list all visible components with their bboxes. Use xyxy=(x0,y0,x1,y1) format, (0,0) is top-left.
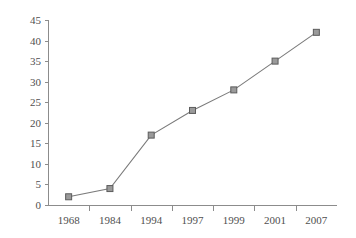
x-tick-label: 1999 xyxy=(223,214,246,226)
y-tick-label: 5 xyxy=(36,178,42,190)
x-tick-label: 2007 xyxy=(305,214,328,226)
data-point-marker xyxy=(107,186,113,192)
y-tick-label: 0 xyxy=(36,199,42,211)
data-series xyxy=(66,29,320,199)
line-chart: 051015202530354045 196819841994199719992… xyxy=(0,0,356,238)
data-point-marker xyxy=(190,107,196,113)
data-point-marker xyxy=(231,87,237,93)
y-axis: 051015202530354045 xyxy=(30,14,49,211)
data-point-marker xyxy=(313,29,319,35)
y-tick-label: 15 xyxy=(30,137,42,149)
x-axis: 1968198419941997199920012007 xyxy=(48,206,337,227)
series-line xyxy=(69,32,317,196)
x-tick-label: 1984 xyxy=(99,214,122,226)
data-point-marker xyxy=(148,132,154,138)
data-point-marker xyxy=(66,194,72,200)
y-tick-label: 35 xyxy=(30,55,42,67)
y-tick-label: 20 xyxy=(30,117,42,129)
x-tick-label: 2001 xyxy=(264,214,286,226)
y-tick-label: 10 xyxy=(30,158,42,170)
x-tick-label: 1994 xyxy=(140,214,163,226)
x-tick-label: 1968 xyxy=(58,214,81,226)
y-tick-label: 25 xyxy=(30,96,42,108)
y-tick-label: 45 xyxy=(30,14,42,26)
x-tick-label: 1997 xyxy=(182,214,205,226)
chart-canvas: 051015202530354045 196819841994199719992… xyxy=(0,0,356,238)
y-tick-label: 30 xyxy=(30,76,42,88)
y-tick-label: 40 xyxy=(30,35,42,47)
data-point-marker xyxy=(272,58,278,64)
